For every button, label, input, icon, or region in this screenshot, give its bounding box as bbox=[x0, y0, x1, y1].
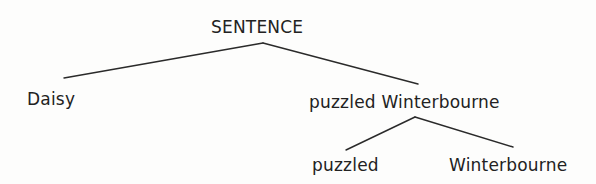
phrase-node-puzzled-winterbourne: puzzled Winterbourne bbox=[309, 92, 500, 112]
syntax-tree-diagram: SENTENCE Daisy puzzled Winterbourne puzz… bbox=[0, 0, 596, 184]
edge-phrase-to-winterbourne bbox=[415, 117, 513, 147]
root-node-sentence: SENTENCE bbox=[211, 17, 303, 37]
edge-phrase-to-puzzled bbox=[346, 117, 415, 150]
edge-root-to-daisy bbox=[64, 43, 263, 78]
leaf-node-daisy: Daisy bbox=[27, 89, 75, 109]
leaf-node-puzzled: puzzled bbox=[312, 155, 379, 175]
leaf-node-winterbourne: Winterbourne bbox=[449, 155, 567, 175]
edge-root-to-puzzled-winterbourne bbox=[263, 43, 418, 84]
